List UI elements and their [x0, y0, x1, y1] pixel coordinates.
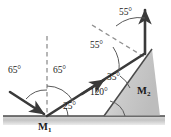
incident-ray-to-m1 [10, 92, 44, 114]
angle-arc-65-left [26, 90, 47, 99]
mirror-label-m1-subscript: 1 [48, 126, 52, 134]
angle-arc-55-upper [116, 18, 145, 26]
figure-canvas: 65° 65° 25° 120° 35° 55° 55° M1 M2 [0, 0, 171, 137]
mirror-m2-surface [104, 49, 160, 120]
angle-label-120: 120° [90, 88, 108, 98]
angle-label-65-left: 65° [8, 66, 21, 76]
reflection-diagram-svg [0, 0, 171, 137]
mirror-label-m2: M2 [137, 86, 150, 97]
mirror-label-m1: M1 [38, 122, 51, 133]
angle-label-35: 35° [107, 73, 120, 83]
angle-label-65-right: 65° [53, 66, 66, 76]
angle-label-25: 25° [63, 102, 76, 112]
angle-arc-55-lower [113, 47, 119, 71]
angle-label-55-upper: 55° [119, 8, 132, 18]
mirror-label-m2-subscript: 2 [147, 90, 151, 98]
angle-arc-65-right [47, 86, 73, 101]
mirror-label-m2-base: M [137, 85, 147, 96]
ground-surface [3, 116, 165, 125]
mirror-label-m1-base: M [38, 121, 48, 132]
angle-label-55-lower: 55° [90, 41, 103, 51]
